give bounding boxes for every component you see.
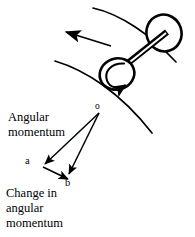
point-b-label: b — [65, 177, 70, 189]
change-in-angular-momentum-label: Change in angular momentum — [6, 186, 63, 230]
gyroscope-assembly — [96, 10, 187, 94]
physics-diagram-figure: Angular momentum Change in angular momen… — [0, 0, 195, 237]
vector-ob — [69, 113, 99, 174]
angular-momentum-label: Angular momentum — [8, 110, 65, 140]
point-o-label: o — [95, 101, 100, 112]
direction-of-motion-arrow — [66, 32, 111, 46]
point-a-label: a — [25, 155, 30, 167]
